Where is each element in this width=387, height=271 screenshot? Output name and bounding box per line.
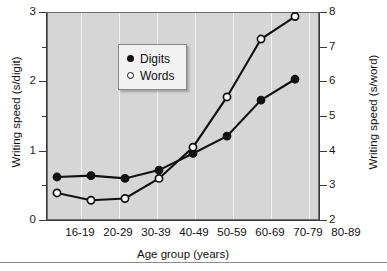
legend-item-words: Words — [127, 67, 174, 84]
chart-figure: 3 2 1 0 8 7 6 5 4 3 2 16-19 20-29 30-39 … — [0, 0, 387, 271]
legend-label-words: Words — [140, 69, 174, 83]
legend: Digits Words — [118, 44, 187, 90]
data-point-words-20-29 — [87, 197, 94, 204]
legend-label-digits: Digits — [140, 52, 170, 66]
data-point-digits-40-49 — [155, 166, 163, 174]
data-point-digits-20-29 — [87, 172, 95, 180]
data-point-words-40-49 — [155, 175, 162, 182]
data-point-words-16-19 — [53, 189, 60, 196]
series-overlay — [0, 0, 387, 271]
data-point-words-60-69 — [223, 93, 230, 100]
data-point-digits-60-69 — [223, 132, 231, 140]
filled-circle-icon — [127, 55, 134, 62]
data-point-words-50-59 — [189, 144, 196, 151]
data-point-digits-80-89 — [291, 75, 299, 83]
data-point-digits-30-39 — [121, 175, 129, 183]
data-point-words-80-89 — [291, 13, 298, 20]
data-point-digits-70-79 — [257, 96, 265, 104]
data-point-words-70-79 — [257, 35, 264, 42]
legend-item-digits: Digits — [127, 50, 174, 67]
footer-rule — [0, 262, 387, 263]
data-point-words-30-39 — [121, 195, 128, 202]
open-circle-icon — [127, 72, 134, 79]
data-point-digits-16-19 — [53, 173, 61, 181]
